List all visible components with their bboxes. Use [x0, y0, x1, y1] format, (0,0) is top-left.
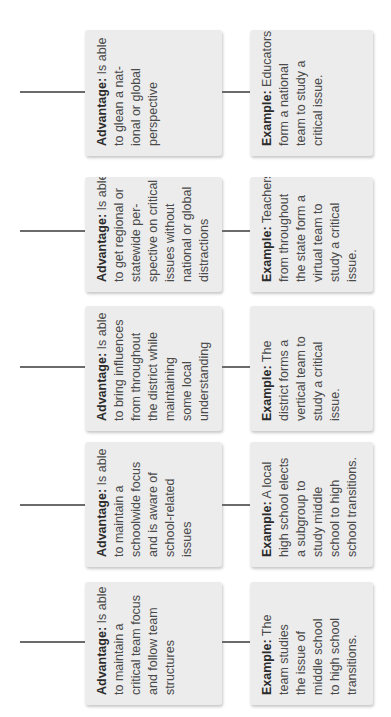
connector-line-lead: [20, 366, 85, 368]
connector-line-mid: [222, 230, 250, 232]
diagram-row-2: Advantage: Is able to get regional or st…: [0, 177, 391, 292]
advantage-label: Advantage:: [95, 214, 109, 282]
advantage-label: Advantage:: [95, 353, 109, 421]
advantage-text: Advantage: Is able to glean a nat- ional…: [94, 38, 162, 146]
example-box: Example: Teachers from throughout the st…: [250, 177, 373, 292]
example-text: Example: A local high school elects a su…: [259, 457, 361, 557]
connector-line-lead: [20, 230, 85, 232]
connector-line-mid: [222, 91, 250, 93]
advantage-box: Advantage: Is able to bring influences f…: [85, 306, 222, 431]
advantage-box: Advantage: Is able to maintain a critica…: [85, 582, 222, 705]
diagram-row-3: Advantage: Is able to bring influences f…: [0, 306, 391, 431]
advantage-box: Advantage: Is able to maintain a schoolw…: [85, 442, 222, 567]
diagram-row-5: Advantage: Is able to maintain a critica…: [0, 582, 391, 705]
advantage-label: Advantage:: [95, 489, 109, 557]
example-label: Example:: [260, 226, 274, 282]
connector-line-lead: [20, 504, 85, 506]
example-label: Example:: [260, 365, 274, 421]
advantage-text: Advantage: Is able to maintain a schoolw…: [94, 449, 196, 557]
diagram-row-1: Advantage: Is able to glean a nat- ional…: [0, 30, 391, 156]
connector-line-mid: [222, 641, 250, 643]
example-box: Example: A local high school elects a su…: [250, 442, 373, 567]
advantage-text: Advantage: Is able to maintain a critica…: [94, 587, 179, 695]
advantage-label: Advantage:: [95, 78, 109, 146]
advantage-text: Advantage: Is able to get regional or st…: [94, 177, 213, 282]
connector-line-lead: [20, 91, 85, 93]
example-label: Example:: [260, 90, 274, 146]
example-box: Example: The district forms a vertical t…: [250, 306, 373, 431]
example-text: Example: The district forms a vertical t…: [259, 336, 344, 421]
example-text: Example: Teachers from throughout the st…: [259, 177, 361, 282]
example-text: Example: The team studies the issue of m…: [259, 615, 361, 695]
connector-line-lead: [20, 641, 85, 643]
connector-line-mid: [222, 366, 250, 368]
diagram-row-4: Advantage: Is able to maintain a schoolw…: [0, 442, 391, 567]
example-label: Example:: [260, 501, 274, 557]
advantage-label: Advantage:: [95, 627, 109, 695]
example-label: Example:: [260, 639, 274, 695]
example-text: Example: Educators form a national team …: [259, 31, 327, 146]
example-box: Example: The team studies the issue of m…: [250, 582, 373, 705]
advantage-box: Advantage: Is able to get regional or st…: [85, 177, 222, 292]
connector-line-mid: [222, 504, 250, 506]
advantage-text: Advantage: Is able to bring influences f…: [94, 313, 213, 421]
advantage-box: Advantage: Is able to glean a nat- ional…: [85, 30, 222, 156]
example-box: Example: Educators form a national team …: [250, 30, 373, 156]
